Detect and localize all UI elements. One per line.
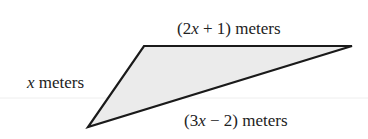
left-side-label: x meters xyxy=(26,73,84,92)
top-side-label: (2x + 1) meters xyxy=(177,19,281,38)
bottom-side-label: (3x − 2) meters xyxy=(184,111,288,130)
triangle-diagram: (2x + 1) meters x meters (3x − 2) meters xyxy=(0,0,368,139)
